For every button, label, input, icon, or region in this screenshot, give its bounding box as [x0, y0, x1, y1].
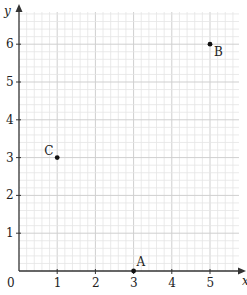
y-tick-label: 5 [6, 75, 14, 89]
grid [19, 12, 239, 271]
point-c-marker [55, 155, 60, 160]
y-axis-arrow-icon [16, 4, 23, 12]
point-a-marker [131, 269, 136, 274]
x-tick-label: 5 [207, 276, 215, 290]
point-a-label: A [136, 255, 146, 269]
x-tick-label: 4 [168, 276, 176, 290]
y-tick-label: 6 [6, 37, 14, 51]
point-c-label: C [44, 144, 53, 158]
y-axis-label: y [3, 4, 11, 18]
point-b-marker [208, 42, 213, 47]
y-tick-label: 4 [6, 113, 14, 127]
coordinate-grid-chart: xy 012345123456 ABC [0, 0, 247, 295]
axis-ticks: 012345123456 [6, 37, 214, 290]
x-axis-label: x [242, 274, 247, 288]
x-tick-label: 0 [7, 276, 15, 290]
point-b-label: B [214, 45, 223, 59]
y-tick-label: 3 [6, 151, 14, 165]
x-tick-label: 2 [92, 276, 100, 290]
x-tick-label: 3 [130, 276, 138, 290]
y-tick-label: 2 [6, 188, 14, 202]
y-tick-label: 1 [6, 226, 14, 240]
x-tick-label: 1 [54, 276, 62, 290]
